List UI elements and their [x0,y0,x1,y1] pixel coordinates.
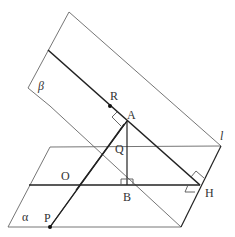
line-RAH [48,50,200,185]
label-Q: Q [115,142,124,156]
label-P: P [44,211,51,225]
label-O: O [61,169,70,183]
label-A: A [127,108,136,122]
geometry-diagram: β α l R A Q O B H P [0,0,235,237]
label-B: B [123,190,131,204]
label-beta: β [37,79,44,93]
label-l: l [220,129,224,143]
label-H: H [205,186,214,200]
point-R [108,104,112,108]
right-angle-marks [112,112,204,192]
label-R: R [110,89,118,103]
plane-alpha [8,146,221,227]
point-P [48,225,52,229]
label-alpha: α [22,210,29,224]
